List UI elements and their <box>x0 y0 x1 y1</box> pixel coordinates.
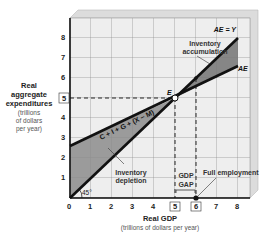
equilibrium-point <box>172 95 178 101</box>
x-axis-title: Real GDP <box>143 214 177 223</box>
aggregate-expenditure-chart: 0 1 2 3 4 5 6 7 8 1 2 3 4 5 6 7 8 Real a… <box>0 0 276 236</box>
angle-label: 45° <box>82 189 92 196</box>
svg-text:GDP: GDP <box>178 172 194 179</box>
y-axis-title: Real aggregate expenditures (trillions o… <box>6 81 53 133</box>
svg-text:2: 2 <box>61 153 65 162</box>
svg-text:of dollars: of dollars <box>16 117 43 124</box>
inventory-depletion-label: Inventory depletion <box>115 169 147 185</box>
svg-text:depletion: depletion <box>115 177 146 185</box>
svg-text:GAP: GAP <box>178 181 194 188</box>
svg-text:accumulation: accumulation <box>182 48 227 55</box>
svg-text:Inventory: Inventory <box>189 40 221 48</box>
svg-text:1: 1 <box>61 173 65 182</box>
svg-text:6: 6 <box>61 73 65 82</box>
svg-text:8: 8 <box>235 202 239 211</box>
equilibrium-label: E <box>167 89 172 96</box>
svg-text:8: 8 <box>61 33 65 42</box>
svg-text:4: 4 <box>61 113 66 122</box>
svg-text:6: 6 <box>194 202 198 211</box>
svg-text:7: 7 <box>214 202 218 211</box>
svg-text:3: 3 <box>130 202 134 211</box>
ae-equals-y-label: AE = Y <box>213 26 238 33</box>
svg-text:1: 1 <box>88 202 92 211</box>
y-tick-labels: 1 2 3 4 5 6 7 8 <box>61 33 66 182</box>
full-employment-label: Full employment <box>203 169 259 177</box>
svg-text:2: 2 <box>109 202 113 211</box>
svg-text:Inventory: Inventory <box>115 169 147 177</box>
svg-text:Real: Real <box>21 81 37 90</box>
svg-text:5: 5 <box>173 202 177 211</box>
svg-text:5: 5 <box>62 94 66 103</box>
ae-label: AE <box>237 65 248 72</box>
svg-text:3: 3 <box>61 133 65 142</box>
svg-text:expenditures: expenditures <box>6 99 53 108</box>
svg-text:7: 7 <box>61 53 65 62</box>
svg-text:per year): per year) <box>16 125 42 133</box>
svg-text:0: 0 <box>67 202 71 211</box>
full-employment-ae-point <box>194 76 198 80</box>
x-tick-labels: 0 1 2 3 4 5 6 7 8 <box>67 202 239 211</box>
x-axis-subtitle: (trillions of dollars per year) <box>121 224 199 232</box>
svg-text:4: 4 <box>151 202 156 211</box>
svg-text:(trillions: (trillions <box>18 109 41 117</box>
svg-text:aggregate: aggregate <box>11 90 47 99</box>
